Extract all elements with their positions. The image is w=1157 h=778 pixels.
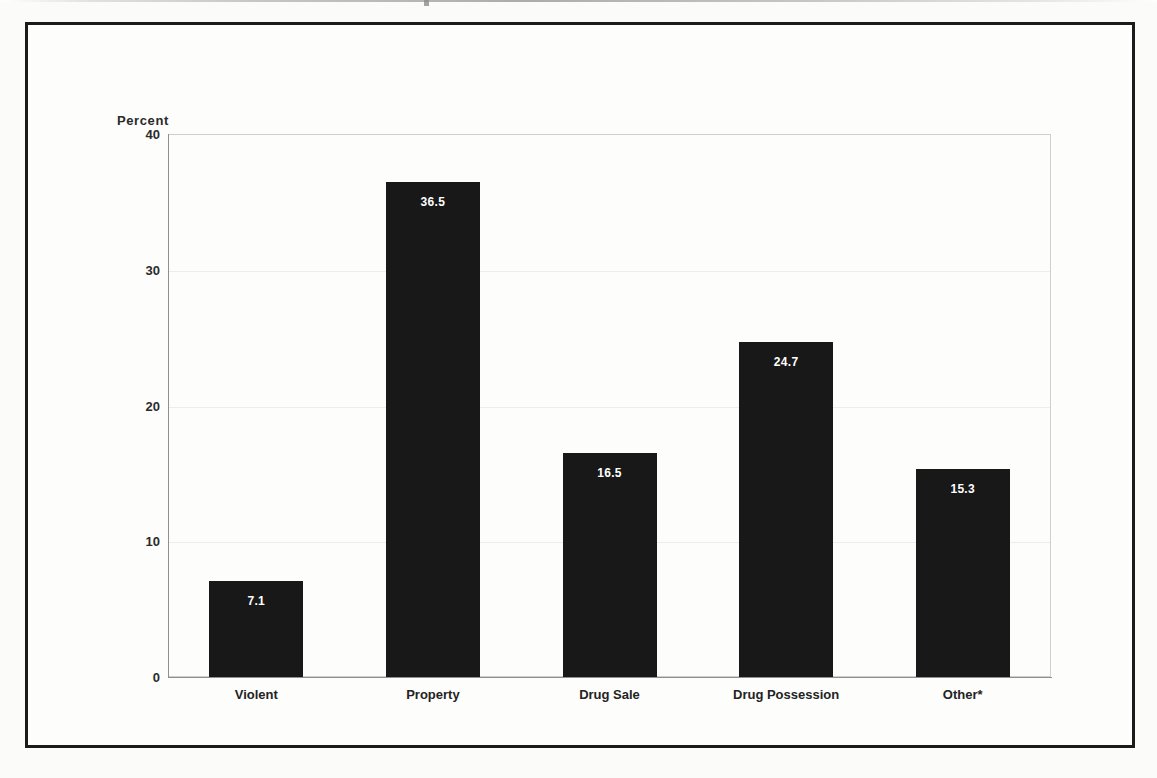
x-axis-category-label: Violent [235,687,278,702]
bar-value-label: 7.1 [209,594,303,608]
bar-chart: Percent 010203040 7.136.516.524.715.3 Vi… [28,25,1132,745]
bar-value-label: 24.7 [739,355,833,369]
bars-layer: 7.136.516.524.715.3 [168,134,1051,677]
scan-artifact-line [0,0,1157,2]
y-axis-title: Percent [117,113,169,128]
y-axis-tick-label: 0 [153,670,160,685]
figure-frame: Percent 010203040 7.136.516.524.715.3 Vi… [25,22,1135,748]
bar-value-label: 15.3 [916,482,1010,496]
scanned-page: Percent 010203040 7.136.516.524.715.3 Vi… [0,0,1157,778]
scan-artifact-mark [424,0,429,6]
y-axis-tick-label: 30 [146,262,160,277]
y-axis-tick-label: 20 [146,398,160,413]
y-axis-tick-labels: 010203040 [118,134,160,677]
x-axis-category-labels: ViolentPropertyDrug SaleDrug PossessionO… [168,687,1051,713]
x-axis-category-label: Property [406,687,459,702]
bar-value-label: 36.5 [386,195,480,209]
x-axis-category-label: Drug Sale [579,687,640,702]
x-axis-category-label: Other* [943,687,983,702]
y-axis-tick-label: 10 [146,534,160,549]
x-axis-line [168,677,1052,678]
bar: 16.5 [563,453,657,677]
bar: 7.1 [209,581,303,677]
bar: 24.7 [739,342,833,677]
bar: 15.3 [916,469,1010,677]
bar-value-label: 16.5 [563,466,657,480]
x-axis-category-label: Drug Possession [733,687,839,702]
y-axis-tick-label: 40 [146,127,160,142]
bar: 36.5 [386,182,480,677]
